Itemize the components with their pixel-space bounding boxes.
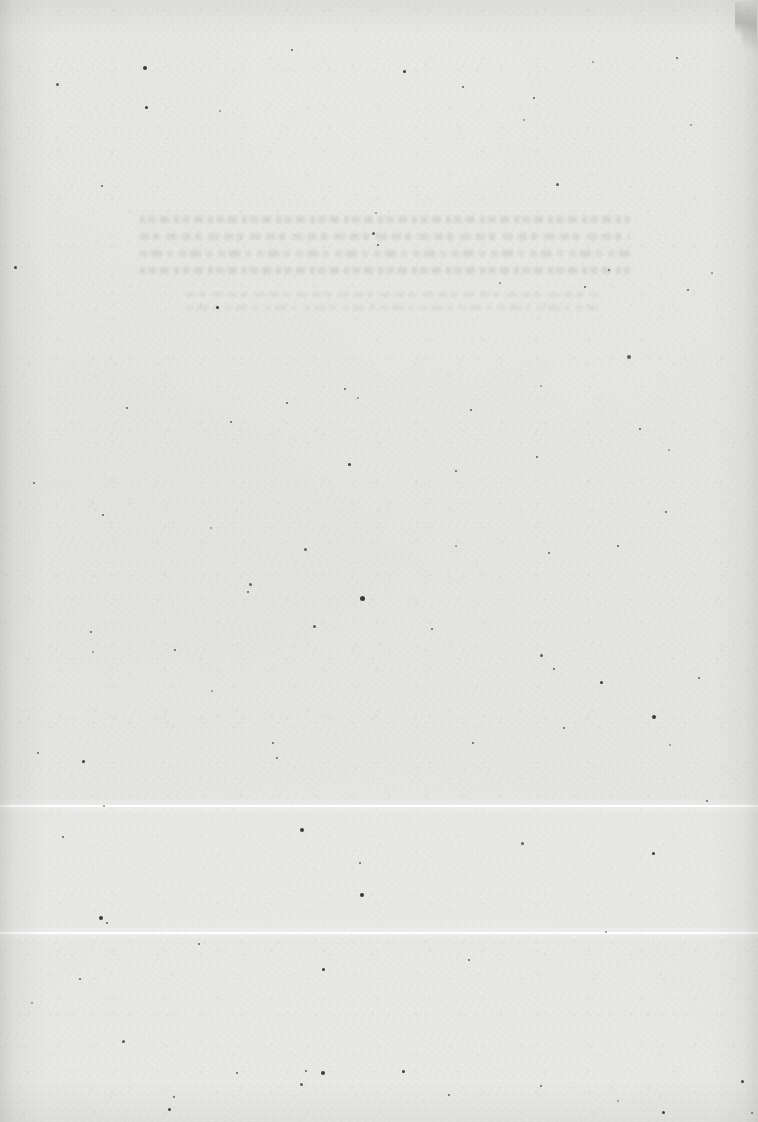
scanned-page [0, 0, 758, 1122]
paper-grain-coarse [0, 0, 758, 1122]
